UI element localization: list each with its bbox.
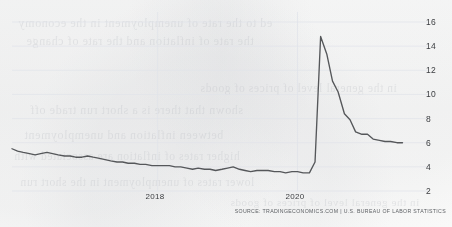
y-axis-tick-label: 2 — [426, 186, 431, 196]
chart-plot-area: 161412108642 20182020 — [0, 0, 452, 227]
y-axis-tick-label: 14 — [426, 41, 436, 51]
chart-gridlines — [12, 22, 428, 191]
source-credit: SOURCE: TRADINGECONOMICS.COM | U.S. BURE… — [235, 208, 446, 214]
x-axis-tick-label: 2020 — [286, 192, 305, 201]
chart-canvas — [0, 0, 452, 227]
data-series-line — [12, 36, 403, 172]
y-axis-tick-label: 8 — [426, 114, 431, 124]
y-axis-tick-label: 12 — [426, 65, 436, 75]
chart-screenshot: ed to the rate of unemployment in the ec… — [0, 0, 452, 227]
y-axis-tick-label: 4 — [426, 162, 431, 172]
y-axis-tick-label: 6 — [426, 138, 431, 148]
y-axis-tick-label: 10 — [426, 89, 436, 99]
chart-vertical-gridlines — [158, 12, 298, 191]
x-axis-tick-label: 2018 — [146, 192, 165, 201]
y-axis-tick-label: 16 — [426, 17, 436, 27]
